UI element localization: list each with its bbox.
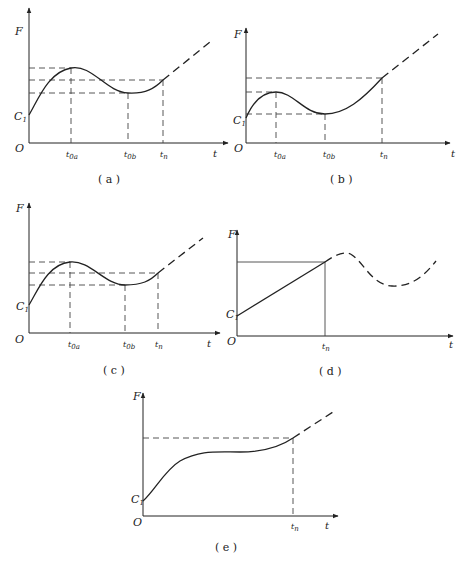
curve-extension — [158, 238, 203, 273]
x-axis-label: t — [451, 148, 456, 159]
caption: ( d ) — [319, 365, 342, 378]
x-axis-label: t — [213, 148, 218, 159]
y-axis-label: F — [227, 228, 236, 241]
guide-lines — [237, 262, 325, 336]
caption: ( a ) — [98, 173, 120, 186]
x-axis-label: t — [449, 339, 454, 350]
curve — [29, 262, 158, 305]
panel-b: F O C1 t0a t0b tn t ( b ) — [233, 28, 456, 186]
guide-lines — [29, 68, 163, 143]
guide-lines — [246, 78, 382, 143]
intercept-label: C1 — [233, 114, 246, 128]
intercept-label: C1 — [16, 300, 29, 314]
tick-tn: tn — [160, 150, 168, 161]
tick-t0b: t0b — [123, 340, 136, 351]
tick-tn: tn — [322, 342, 330, 353]
guide-lines — [29, 262, 158, 333]
y-axis-label: F — [14, 25, 23, 38]
tick-t0a: t0a — [274, 150, 286, 161]
tick-t0a: t0a — [66, 150, 78, 161]
x-axis-label: t — [207, 338, 212, 349]
panel-e: F O C1 tn t ( e ) — [131, 390, 338, 554]
origin-label: O — [133, 516, 142, 529]
guide-lines — [143, 438, 293, 516]
curve-extension — [163, 42, 210, 80]
y-axis-label: F — [233, 28, 242, 41]
caption: ( b ) — [330, 173, 353, 186]
tick-tn: tn — [291, 522, 299, 533]
y-axis-label: F — [132, 390, 141, 403]
intercept-label: C1 — [14, 110, 27, 124]
caption: ( c ) — [103, 364, 125, 377]
tick-t0b: t0b — [124, 150, 137, 161]
tick-t0a: t0a — [68, 340, 80, 351]
origin-label: O — [227, 335, 236, 348]
curve — [143, 438, 293, 501]
origin-label: O — [15, 333, 24, 346]
origin-label: O — [234, 142, 243, 155]
curve-extension — [382, 34, 438, 78]
x-axis-label: t — [325, 520, 330, 531]
curve — [237, 262, 325, 316]
panel-a: F O C1 t0a t0b tn t ( a ) — [14, 8, 228, 186]
y-axis-label: F — [15, 202, 24, 215]
curve-extension — [293, 410, 336, 438]
curve — [246, 78, 382, 118]
curve-extension — [325, 253, 436, 286]
tick-tn: tn — [155, 340, 163, 351]
caption: ( e ) — [215, 541, 237, 554]
origin-label: O — [15, 142, 24, 155]
panel-d: F O C1 tn t ( d ) — [226, 228, 454, 378]
curve — [29, 68, 163, 115]
intercept-label: C1 — [131, 493, 144, 507]
tick-t0b: t0b — [323, 150, 336, 161]
tick-tn: tn — [380, 150, 388, 161]
diagram-canvas: F O C1 t0a t0b tn t ( a ) F O C1 t0a t0b… — [0, 0, 465, 565]
panel-c: F O C1 t0a t0b tn t ( c ) — [15, 202, 220, 377]
